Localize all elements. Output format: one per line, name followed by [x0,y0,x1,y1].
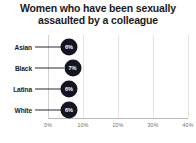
chart-title-line-2: assaulted by a colleague [6,14,190,26]
data-value-white: 6% [65,107,73,113]
x-tick-label-3: 30% [148,122,159,128]
chart-title: Women who have been sexually assaulted b… [6,2,190,27]
x-tick-label-1: 10% [78,122,89,128]
gridline-30 [153,35,154,118]
category-label-asian: Asian [15,44,32,51]
data-bubble-white: 6% [61,102,78,119]
chart-figure: Women who have been sexually assaulted b… [0,0,196,143]
x-tick-label-2: 20% [113,122,124,128]
category-label-black: Black [15,65,32,72]
connector-line-white [35,110,61,111]
gridline-20 [118,35,119,118]
plot-wrapper: 0% 10% 20% 30% 40% Asian 6% Black 7% Lat… [0,33,196,143]
data-value-black: 7% [69,65,77,71]
data-bubble-latina: 6% [61,81,78,98]
connector-line-latina [35,89,61,90]
chart-title-line-1: Women who have been sexually [6,2,190,14]
data-value-asian: 6% [65,44,73,50]
x-tick-label-0: 0% [44,122,52,128]
connector-line-asian [35,47,61,48]
x-tick-label-4: 40% [183,122,194,128]
data-bubble-black: 7% [64,60,81,77]
category-label-white: White [15,107,32,114]
gridline-10 [83,35,84,118]
category-label-latina: Latina [13,86,32,93]
data-bubble-asian: 6% [61,39,78,56]
connector-line-black [35,68,64,69]
gridline-40 [188,35,189,118]
data-value-latina: 6% [65,86,73,92]
